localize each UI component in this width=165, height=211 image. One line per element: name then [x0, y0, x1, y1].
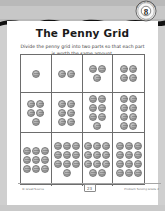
worksheet-page: Problem Solving Lesson 8 The Penny Grid …: [0, 0, 165, 211]
penny-coin-icon: [58, 118, 66, 126]
penny-coin-icon: [58, 100, 66, 108]
penny-group: [114, 142, 143, 177]
penny-grid-cell[interactable]: [113, 133, 144, 186]
penny-grid-cell[interactable]: [52, 133, 83, 186]
page-edge-left: [0, 0, 7, 211]
penny-coin-icon: [93, 160, 101, 168]
penny-coin-icon: [134, 151, 142, 159]
penny-coin-icon: [98, 95, 106, 103]
penny-coin-icon: [120, 95, 128, 103]
penny-coin-icon: [116, 160, 124, 168]
penny-coin-icon: [129, 113, 137, 121]
penny-coin-icon: [67, 100, 75, 108]
page-edge-bottom: [0, 205, 165, 211]
penny-coin-icon: [93, 74, 101, 82]
penny-grid-cell[interactable]: [83, 55, 114, 93]
penny-grid-cell[interactable]: [83, 93, 114, 133]
page-edge-right: [158, 0, 165, 211]
penny-grid-cell[interactable]: [21, 133, 52, 186]
penny-coin-icon: [63, 169, 71, 177]
penny-grid-cell[interactable]: [52, 93, 83, 133]
penny-coin-icon: [98, 104, 106, 112]
penny-coin-icon: [63, 142, 71, 150]
penny-coin-icon: [120, 65, 128, 73]
penny-coin-icon: [27, 100, 35, 108]
penny-coin-icon: [98, 113, 106, 121]
penny-coin-icon: [54, 151, 62, 159]
penny-coin-icon: [36, 100, 44, 108]
penny-coin-icon: [32, 147, 40, 155]
penny-coin-icon: [134, 142, 142, 150]
penny-grid-cell[interactable]: [83, 133, 114, 186]
penny-coin-icon: [67, 118, 75, 126]
penny-coin-icon: [84, 151, 92, 159]
penny-coin-icon: [98, 169, 106, 177]
penny-grid-cell[interactable]: [113, 55, 144, 93]
penny-coin-icon: [72, 142, 80, 150]
page-number: 23: [84, 184, 96, 192]
penny-coin-icon: [89, 95, 97, 103]
penny-group: [84, 142, 112, 177]
penny-coin-icon: [67, 70, 75, 78]
penny-grid-cell[interactable]: [52, 55, 83, 93]
penny-grid-cell[interactable]: [21, 55, 52, 93]
penny-coin-icon: [32, 156, 40, 164]
footer-copyright: © Great Source: [22, 187, 44, 191]
penny-coin-icon: [125, 142, 133, 150]
penny-coin-icon: [129, 104, 137, 112]
page-footer: © Great Source 23 Problem Solving Grade …: [14, 183, 165, 199]
penny-coin-icon: [32, 70, 40, 78]
penny-coin-icon: [58, 109, 66, 117]
penny-coin-icon: [93, 151, 101, 159]
penny-coin-icon: [23, 156, 31, 164]
penny-coin-icon: [129, 95, 137, 103]
penny-coin-icon: [32, 118, 40, 126]
penny-coin-icon: [129, 122, 137, 130]
penny-group: [22, 147, 50, 173]
worksheet-content: The Penny Grid Divide the penny grid int…: [7, 21, 158, 205]
penny-coin-icon: [54, 160, 62, 168]
penny-coin-icon: [27, 109, 35, 117]
penny-group: [87, 95, 108, 130]
penny-coin-icon: [125, 160, 133, 168]
penny-coin-icon: [72, 151, 80, 159]
penny-coin-icon: [67, 109, 75, 117]
penny-coin-icon: [41, 147, 49, 155]
penny-coin-icon: [89, 104, 97, 112]
penny-coin-icon: [89, 65, 97, 73]
penny-coin-icon: [41, 165, 49, 173]
penny-coin-icon: [120, 122, 128, 130]
penny-group: [25, 100, 46, 126]
lesson-badge: Problem Solving Lesson 8: [132, 0, 160, 25]
penny-coin-icon: [129, 74, 137, 82]
penny-coin-icon: [134, 160, 142, 168]
footer-source: Problem Solving Grade 2: [124, 187, 159, 191]
penny-coin-icon: [58, 70, 66, 78]
penny-coin-icon: [120, 104, 128, 112]
penny-group: [22, 70, 50, 78]
penny-coin-icon: [89, 113, 97, 121]
penny-coin-icon: [120, 74, 128, 82]
penny-coin-icon: [23, 165, 31, 173]
penny-coin-icon: [63, 160, 71, 168]
penny-coin-icon: [116, 142, 124, 150]
penny-coin-icon: [36, 109, 44, 117]
penny-coin-icon: [89, 169, 97, 177]
penny-group: [53, 142, 81, 177]
penny-coin-icon: [32, 165, 40, 173]
penny-group: [118, 95, 139, 130]
badge-number: 8: [132, 0, 160, 25]
penny-coin-icon: [93, 122, 101, 130]
penny-grid-cell[interactable]: [113, 93, 144, 133]
penny-coin-icon: [63, 151, 71, 159]
penny-coin-icon: [54, 142, 62, 150]
penny-coin-icon: [125, 169, 133, 177]
penny-coin-icon: [120, 113, 128, 121]
penny-group: [87, 65, 108, 82]
penny-coin-icon: [93, 142, 101, 150]
penny-grid-cell[interactable]: [21, 93, 52, 133]
penny-group: [118, 65, 139, 82]
penny-coin-icon: [102, 142, 110, 150]
penny-coin-icon: [72, 160, 80, 168]
penny-coin-icon: [129, 65, 137, 73]
